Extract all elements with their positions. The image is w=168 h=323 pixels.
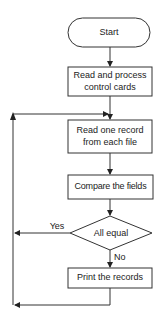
- all-equal-label: All equal: [70, 228, 152, 239]
- read-record-label-1: Read one record: [68, 125, 152, 136]
- read-record-label-2: from each file: [68, 137, 152, 148]
- read-control-label-1: Read and process: [68, 70, 152, 81]
- read-control-label-2: control cards: [68, 82, 152, 93]
- no-label: No: [114, 252, 128, 263]
- yes-label: Yes: [48, 221, 66, 232]
- compare-label: Compare the fields: [68, 181, 153, 192]
- print-label: Print the records: [68, 272, 152, 283]
- start-label: Start: [68, 27, 150, 38]
